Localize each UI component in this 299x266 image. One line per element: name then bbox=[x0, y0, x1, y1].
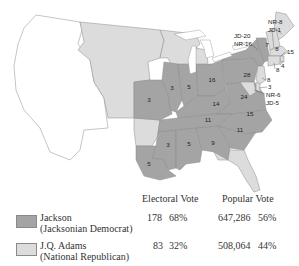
popular-pct: 56% bbox=[258, 212, 276, 223]
candidate-name: Jackson bbox=[40, 212, 132, 223]
adams-label: J.Q. Adams (National Republican) bbox=[40, 240, 129, 262]
party-name: (Jacksonian Democrat) bbox=[40, 223, 132, 234]
electoral-pct: 32% bbox=[169, 240, 187, 251]
candidate-name: J.Q. Adams bbox=[40, 240, 129, 251]
jackson-color-swatch bbox=[16, 215, 37, 228]
adams-color-swatch bbox=[16, 243, 37, 256]
electoral-pct: 68% bbox=[169, 212, 187, 223]
legend-row-jackson: Jackson (Jacksonian Democrat) 178 68% 64… bbox=[14, 212, 299, 240]
popular-vote-header: Popular Vote bbox=[222, 193, 274, 204]
electoral-vote-header: Electoral Vote bbox=[142, 193, 199, 204]
party-name: (National Republican) bbox=[40, 251, 129, 262]
election-legend: Electoral Vote Popular Vote Jackson (Jac… bbox=[0, 0, 299, 266]
jackson-label: Jackson (Jacksonian Democrat) bbox=[40, 212, 132, 234]
popular-pct: 44% bbox=[258, 240, 276, 251]
electoral-votes: 178 bbox=[147, 212, 162, 223]
legend-row-adams: J.Q. Adams (National Republican) 83 32% … bbox=[14, 240, 299, 266]
popular-votes: 647,286 bbox=[218, 212, 251, 223]
electoral-votes: 83 bbox=[153, 240, 163, 251]
popular-votes: 508,064 bbox=[218, 240, 251, 251]
